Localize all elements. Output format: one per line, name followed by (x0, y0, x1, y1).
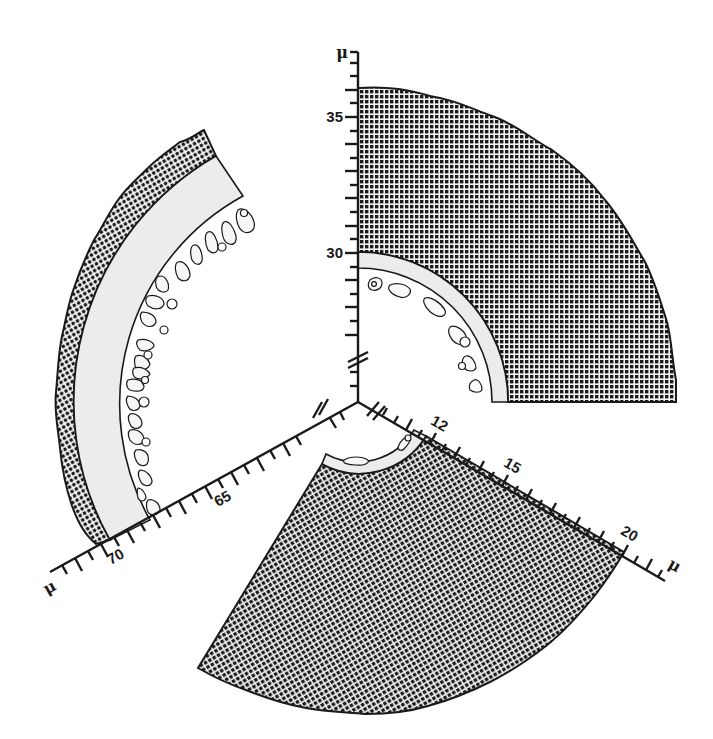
sector-left (55, 130, 254, 544)
hatched-wall-bottom (198, 436, 624, 714)
hatched-wall-top-right (358, 87, 676, 402)
sector-bottom (198, 430, 624, 714)
axis-top-tick-30: 30 (326, 244, 343, 261)
axis-left-tick-65: 65 (211, 487, 234, 510)
light-band-left (74, 156, 243, 540)
axis-right-tick-12: 12 (428, 412, 451, 435)
axis-left-unit: μ (40, 576, 60, 598)
sector-diagram: μ 35 30 65 70 μ (0, 0, 713, 739)
axis-right-unit: μ (665, 554, 685, 576)
axis-left-tick-70: 70 (104, 545, 127, 568)
axis-top-unit: μ (336, 43, 348, 62)
axis-right-tick-15: 15 (501, 454, 524, 477)
axis-top-tick-35: 35 (326, 108, 343, 125)
axis-right-tick-20: 20 (618, 522, 641, 545)
sector-top-right (358, 87, 676, 402)
